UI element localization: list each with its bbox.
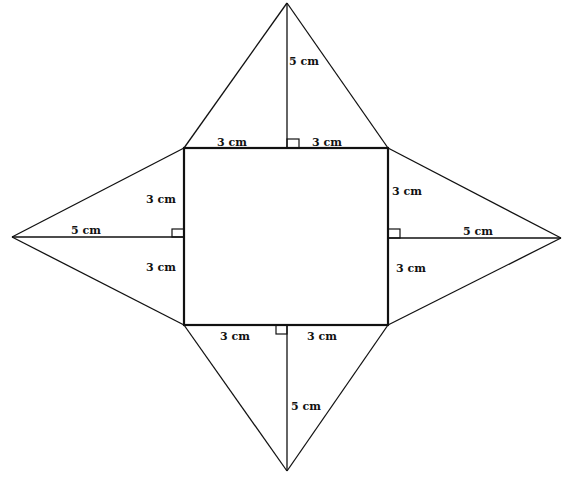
top-base-right-label: 3 cm bbox=[312, 136, 342, 149]
bottom-face: 3 cm 3 cm 5 cm bbox=[184, 325, 388, 471]
bottom-face-left-edge bbox=[184, 325, 287, 471]
right-height-label: 5 cm bbox=[463, 225, 493, 238]
top-right-angle-marker bbox=[287, 139, 299, 148]
left-height-label: 5 cm bbox=[71, 224, 101, 237]
right-face: 5 cm 3 cm 3 cm bbox=[388, 148, 561, 325]
pyramid-net-diagram: 5 cm 3 cm 3 cm 5 cm 3 cm 3 cm 5 cm 3 cm … bbox=[0, 0, 568, 484]
bottom-base-right-label: 3 cm bbox=[307, 330, 337, 343]
top-base-left-label: 3 cm bbox=[217, 136, 247, 149]
square-base bbox=[184, 148, 388, 325]
bottom-face-right-edge bbox=[287, 325, 388, 471]
left-right-angle-marker bbox=[172, 229, 184, 237]
right-right-angle-marker bbox=[388, 229, 400, 238]
top-face-left-edge bbox=[184, 3, 287, 148]
bottom-height-label: 5 cm bbox=[291, 400, 321, 413]
left-base-lower-label: 3 cm bbox=[146, 261, 176, 274]
right-base-upper-label: 3 cm bbox=[392, 185, 422, 198]
right-face-lower-edge bbox=[388, 238, 561, 325]
left-base-upper-label: 3 cm bbox=[146, 193, 176, 206]
top-face: 5 cm 3 cm 3 cm bbox=[184, 3, 388, 149]
top-height-label: 5 cm bbox=[289, 55, 319, 68]
left-face-lower-edge bbox=[12, 237, 184, 325]
left-face: 5 cm 3 cm 3 cm bbox=[12, 148, 184, 325]
bottom-right-angle-marker bbox=[276, 325, 287, 334]
bottom-base-left-label: 3 cm bbox=[220, 330, 250, 343]
right-base-lower-label: 3 cm bbox=[396, 262, 426, 275]
top-face-right-edge bbox=[287, 3, 388, 148]
